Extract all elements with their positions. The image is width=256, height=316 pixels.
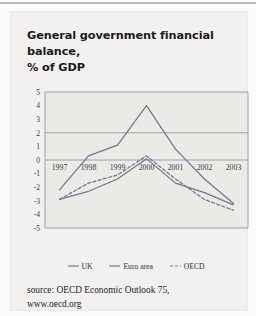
svg-text:0: 0 xyxy=(36,156,40,165)
source-line-1: source: OECD Economic Outlook 75, xyxy=(27,284,235,298)
svg-text:2003: 2003 xyxy=(226,163,242,172)
figure-card: General government financial balance, % … xyxy=(11,12,247,310)
source-line-2: www.oecd.org xyxy=(27,298,235,312)
y-axis-tick-labels: 543210-1-2-3-4-5 xyxy=(34,88,41,233)
chart-title: General government financial balance, % … xyxy=(27,28,233,76)
legend-swatch-icon xyxy=(68,263,79,269)
top-divider xyxy=(0,2,256,4)
svg-text:-4: -4 xyxy=(34,210,41,219)
legend-label: UK xyxy=(82,262,93,271)
legend-swatch-icon xyxy=(109,263,120,269)
svg-text:4: 4 xyxy=(36,101,40,110)
legend-swatch-icon xyxy=(170,263,181,269)
chart-legend: UKEuro areaOECD xyxy=(25,258,247,274)
legend-item-euro-area: Euro area xyxy=(109,262,152,271)
svg-text:5: 5 xyxy=(36,88,40,97)
svg-text:-1: -1 xyxy=(34,169,41,178)
legend-label: Euro area xyxy=(123,262,152,271)
svg-text:-5: -5 xyxy=(34,224,41,233)
svg-text:2001: 2001 xyxy=(168,163,184,172)
svg-text:2002: 2002 xyxy=(197,163,213,172)
legend-label: OECD xyxy=(184,262,205,271)
chart-title-line-2: % of GDP xyxy=(27,61,85,74)
svg-text:-3: -3 xyxy=(34,197,41,206)
legend-item-oecd: OECD xyxy=(170,262,205,271)
line-chart: 543210-1-2-3-4-5 19971998199920002001200… xyxy=(25,88,249,256)
source-note: source: OECD Economic Outlook 75, www.oe… xyxy=(27,284,235,311)
svg-text:-2: -2 xyxy=(34,183,41,192)
svg-text:1998: 1998 xyxy=(81,163,97,172)
svg-text:1997: 1997 xyxy=(52,163,68,172)
chart-plot-area: 543210-1-2-3-4-5 19971998199920002001200… xyxy=(25,88,249,256)
legend-item-uk: UK xyxy=(68,262,93,271)
svg-text:1999: 1999 xyxy=(110,163,126,172)
chart-title-line-1: General government financial balance, xyxy=(27,29,214,58)
svg-text:3: 3 xyxy=(36,115,40,124)
figure-page: General government financial balance, % … xyxy=(0,0,256,316)
svg-text:1: 1 xyxy=(36,142,40,151)
svg-text:2: 2 xyxy=(36,129,40,138)
